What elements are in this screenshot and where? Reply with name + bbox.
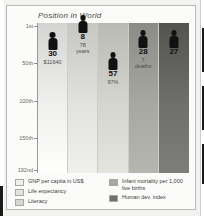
chart-column: 30$11640	[38, 23, 68, 173]
page-left-edge	[0, 0, 4, 216]
chart-column: 27	[159, 23, 189, 173]
legend-swatch	[15, 199, 24, 206]
y-axis-label: 100th	[19, 98, 33, 104]
chart-card: Position in World 1st50th100th150th192nd…	[6, 5, 196, 210]
legend-label: Literacy	[28, 198, 47, 205]
page-right-mark-1	[202, 28, 204, 72]
column-unit: deaths	[135, 63, 152, 69]
person-icon-head	[110, 52, 116, 58]
column-value: $11640	[44, 59, 62, 65]
legend-column-right: Infant mortality per 1,000 live birthsHu…	[109, 178, 189, 206]
columns-group: 30$11640878years5797%287deaths27	[38, 23, 189, 173]
chart-legend: GNP per capita in US$Life expectancyLite…	[15, 178, 189, 206]
legend-swatch	[15, 179, 24, 186]
column-value-group: 30$11640	[44, 50, 62, 65]
legend-item[interactable]: GNP per capita in US$	[15, 178, 101, 186]
chart-title: Position in World	[38, 11, 101, 20]
legend-item[interactable]: Infant mortality per 1,000 live births	[109, 178, 189, 192]
column-unit: years	[76, 48, 89, 54]
person-icon	[137, 30, 150, 48]
legend-label: Infant mortality per 1,000 live births	[122, 178, 189, 192]
legend-column-left: GNP per capita in US$Life expectancyLite…	[15, 178, 101, 206]
plot-area: 1st50th100th150th192nd 30$11640878years5…	[37, 23, 189, 173]
legend-swatch	[15, 189, 24, 196]
legend-item[interactable]: Human dev. index	[109, 194, 189, 202]
person-icon	[167, 30, 180, 48]
y-axis-label: 192nd	[18, 167, 33, 173]
legend-item[interactable]: Literacy	[15, 198, 101, 206]
page-right-mark-2	[202, 86, 204, 130]
person-icon-head	[50, 32, 56, 38]
column-rank: 8	[76, 33, 89, 42]
column-value-group: 5797%	[107, 70, 118, 85]
column-rank: 57	[107, 70, 118, 79]
y-axis-label: 150th	[19, 135, 33, 141]
column-value-group: 27	[169, 48, 178, 57]
legend-swatch	[109, 195, 118, 202]
column-rank: 30	[44, 50, 62, 59]
column-value-group: 878years	[76, 33, 89, 54]
person-icon-head	[171, 30, 177, 36]
legend-label: GNP per capita in US$	[28, 178, 84, 185]
infographic-root: Position in World 1st50th100th150th192nd…	[0, 0, 204, 216]
column-value-group: 287deaths	[135, 48, 152, 69]
person-icon	[106, 52, 119, 70]
legend-label: Life expectancy	[28, 188, 66, 195]
page-left-edge-mark	[0, 186, 3, 216]
y-axis-label: 1st	[26, 23, 33, 29]
person-icon-head	[140, 30, 146, 36]
page-right-mark-3	[202, 144, 204, 184]
person-icon	[46, 32, 59, 50]
legend-item[interactable]: Life expectancy	[15, 188, 101, 196]
legend-swatch	[109, 179, 118, 186]
column-rank: 28	[135, 48, 152, 57]
chart-column: 287deaths	[129, 23, 159, 173]
person-icon	[76, 15, 89, 33]
chart-column: 5797%	[98, 23, 128, 173]
y-axis-label: 50th	[22, 60, 33, 66]
legend-label: Human dev. index	[122, 194, 166, 201]
column-value: 97%	[107, 79, 118, 85]
column-rank: 27	[169, 48, 178, 57]
person-icon-head	[80, 15, 86, 21]
chart-column: 878years	[68, 23, 98, 173]
